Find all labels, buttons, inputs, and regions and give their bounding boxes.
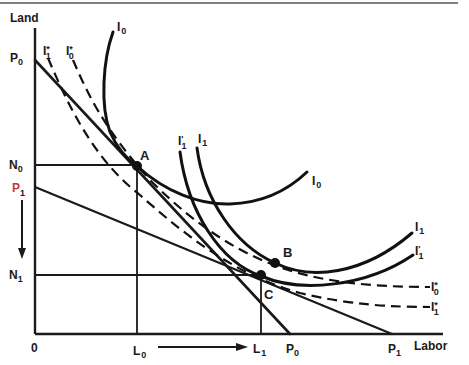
point-c — [256, 270, 266, 280]
arrow-down-icon — [18, 200, 26, 259]
point-c-label: C — [264, 287, 274, 302]
y-axis-title: Land — [10, 11, 39, 25]
isoquant-i1-prime — [180, 152, 413, 285]
x-axis-title: Labor — [414, 339, 448, 353]
label-i0-top: I0 — [117, 20, 126, 36]
label-i1-star-right: I*1 — [431, 300, 439, 317]
arrow-right-icon — [158, 343, 248, 351]
label-n0: N0 — [9, 158, 23, 174]
label-i1-star-top: I*1 — [43, 44, 51, 61]
label-i0-right: I0 — [312, 174, 321, 190]
label-n1: N1 — [9, 268, 23, 284]
label-i1-prime-right: I'1 — [415, 244, 424, 261]
label-l0: L0 — [133, 344, 146, 360]
label-i1-right: I1 — [415, 220, 424, 236]
origin-label: 0 — [31, 341, 38, 355]
label-i1-mid: I1 — [198, 132, 207, 148]
label-l1: L1 — [253, 342, 266, 358]
isoquant-i1 — [197, 148, 412, 272]
budget-line-p1 — [35, 187, 392, 334]
label-i0-star-right: I*0 — [431, 280, 439, 297]
isoquant-diagram: A B C Land Labor 0 P0 N0 P1 N1 I*1 I*0 I… — [0, 0, 469, 365]
label-p1-x: P1 — [388, 342, 401, 358]
label-i0-star-top: I*0 — [66, 44, 74, 61]
label-p0-y: P0 — [10, 51, 23, 67]
budget-line-p0 — [35, 60, 290, 334]
label-p1-y: P1 — [12, 181, 25, 198]
point-b-label: B — [283, 245, 292, 260]
isoquant-i0-star — [73, 60, 430, 287]
label-p0-x: P0 — [286, 342, 299, 358]
point-a-label: A — [140, 148, 150, 163]
label-i1-prime-mid: I'1 — [178, 134, 187, 151]
point-b — [270, 258, 280, 268]
